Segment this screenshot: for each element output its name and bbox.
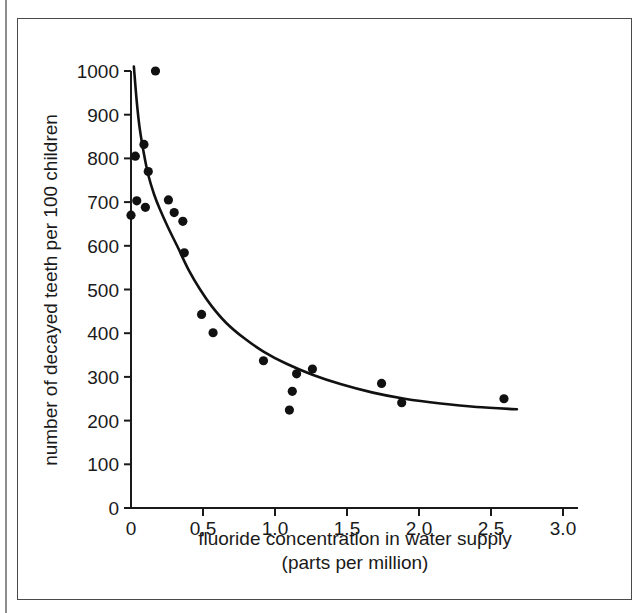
y-tick-marks [124,71,131,508]
y-axis-group: 01002003004005006007008009001000 [77,61,131,519]
y-tick-label-200: 200 [87,411,119,432]
scatter-chart: 01002003004005006007008009001000 00.51.0… [0,0,642,613]
y-tick-label-1000: 1000 [77,61,119,82]
y-axis-title: number of decayed teeth per 100 children [40,114,61,466]
data-point [397,398,406,407]
y-tick-label-900: 900 [87,105,119,126]
x-axis-title-line1: fluoride concentration in water supply [198,528,512,549]
data-point [197,310,206,319]
y-tick-label-700: 700 [87,192,119,213]
data-point [377,379,386,388]
y-tick-label-800: 800 [87,148,119,169]
x-tick-label-0: 0 [126,518,137,539]
data-point [139,140,148,149]
data-point [178,217,187,226]
data-point [208,328,217,337]
data-point [141,203,150,212]
data-point [131,152,140,161]
data-point [259,356,268,365]
y-tick-label-500: 500 [87,280,119,301]
figure-page: 01002003004005006007008009001000 00.51.0… [0,0,642,613]
data-point [126,211,135,220]
y-tick-label-100: 100 [87,454,119,475]
data-point [144,167,153,176]
y-tick-label-400: 400 [87,323,119,344]
x-axis-title-line2: (parts per million) [282,552,429,573]
y-tick-labels: 01002003004005006007008009001000 [77,61,119,519]
fit-curve [134,67,517,410]
data-points-group [126,66,508,414]
data-point [180,248,189,257]
y-tick-label-300: 300 [87,367,119,388]
page-caption-partial [17,601,632,613]
data-point [132,196,141,205]
y-tick-label-600: 600 [87,236,119,257]
plot-area: 01002003004005006007008009001000 00.51.0… [0,0,642,613]
data-point [292,369,301,378]
y-tick-label-0: 0 [108,498,119,519]
data-point [170,208,179,217]
x-tick-marks [203,508,563,516]
x-tick-label-3.0: 3.0 [550,518,576,539]
data-point [288,387,297,396]
data-point [285,406,294,415]
data-point [164,195,173,204]
data-point [151,66,160,75]
data-point [499,394,508,403]
data-point [308,364,317,373]
